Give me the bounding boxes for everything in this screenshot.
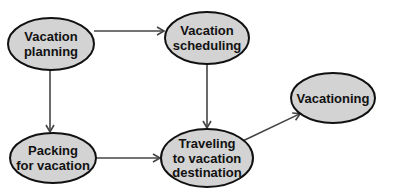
node-label-line: Packing	[28, 143, 78, 158]
arrow-traveling-to-vacationing	[244, 114, 300, 141]
node-label-line: scheduling	[173, 38, 242, 53]
node-traveling: Travelingto vacationdestination	[161, 129, 253, 187]
vacation-flow-diagram: VacationplanningVacationschedulingVacati…	[0, 0, 395, 196]
node-label-line: destination	[172, 165, 241, 180]
node-planning: Vacationplanning	[8, 18, 94, 70]
node-vacationing: Vacationing	[291, 73, 375, 123]
node-label-line: Traveling	[178, 136, 235, 151]
node-packing: Packingfor vacation	[10, 133, 96, 183]
node-scheduling: Vacationscheduling	[165, 12, 249, 64]
arrow-line	[244, 114, 300, 141]
node-label-line: Vacation	[24, 29, 78, 44]
node-label-line: Vacation	[180, 23, 234, 38]
node-label-line: Vacationing	[297, 91, 370, 106]
node-label-line: to vacation	[173, 151, 242, 166]
node-label-line: planning	[24, 44, 78, 59]
node-label-line: for vacation	[16, 158, 90, 173]
